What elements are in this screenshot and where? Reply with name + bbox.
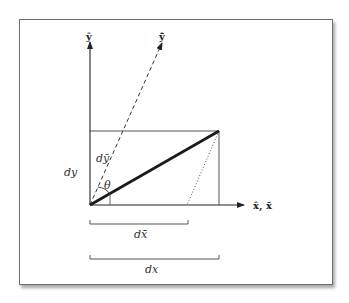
dy-bar-label: dȳ [96,152,110,165]
y-axis-label: ŷ [85,31,93,42]
x-axis-label: x̂, x̄ [253,200,273,212]
dx-bar-label: dx̄ [134,228,148,241]
theta-label: θ [104,179,111,192]
dx-bracket [90,255,219,259]
dx-label: dx [145,263,159,276]
projection-dotted-line [187,131,219,205]
y-bar-axis-dashed [90,43,162,205]
dx-bar-bracket [90,220,188,224]
vector-line [90,131,219,205]
coordinate-transform-diagram: ŷ ŷ̄ x̂, x̄ dy dȳ θ dx̄ dx [0,0,349,303]
dy-label: dy [64,166,78,179]
y-bar-axis-label: ŷ̄ [158,31,166,42]
